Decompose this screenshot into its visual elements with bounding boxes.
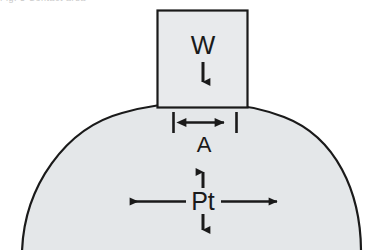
internal-pressure-label: Pt (191, 187, 215, 215)
dome-outline (22, 103, 361, 250)
figure-root: Fig. 5 Contact area (0, 0, 380, 250)
load-label: W (191, 30, 216, 60)
pressurized-curved-body (22, 103, 361, 250)
diagram-canvas: W A Pt (0, 0, 380, 250)
contact-width-label: A (197, 132, 212, 157)
